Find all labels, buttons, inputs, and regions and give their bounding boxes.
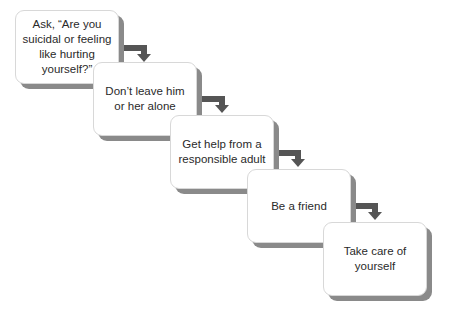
step-box-5: Take care of yourself [323, 222, 427, 296]
step-label: Don’t leave him or her alone [100, 84, 190, 114]
step-label: Get help from a responsible adult [177, 137, 267, 167]
step-label: Be a friend [271, 199, 327, 214]
step-label: Take care of yourself [330, 244, 420, 274]
